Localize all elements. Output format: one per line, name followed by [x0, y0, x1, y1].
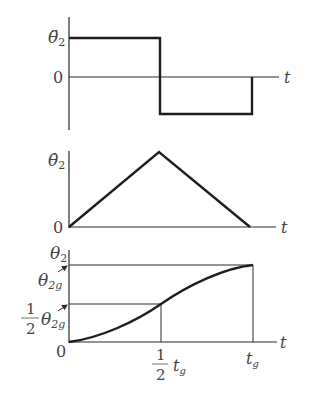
- panel-position: θ2 θ2g 1 2 θ2g 0 t 1 2 tg tg: [21, 243, 287, 384]
- panel-velocity: θ̇2 0 t: [48, 150, 288, 237]
- zero-label: 0: [53, 218, 63, 237]
- zero-label: 0: [53, 68, 63, 87]
- half-level-label: 1 2 θ2g: [21, 300, 65, 338]
- diagram-canvas: θ̈2 0 t θ̇2 0 t θ2 θ2g 1 2 θ2g 0 t: [0, 0, 311, 409]
- panel-acceleration: θ̈2 0 t: [48, 17, 291, 130]
- y-label: θ̇2: [48, 150, 65, 172]
- half-tg-tick-label: 1 2 tg: [152, 346, 186, 384]
- acceleration-curve: [69, 38, 252, 114]
- svg-text:θ2g: θ2g: [41, 309, 65, 331]
- svg-text:2: 2: [26, 320, 36, 338]
- svg-text:1: 1: [26, 300, 36, 318]
- svg-text:2: 2: [156, 366, 166, 384]
- tg-tick-label: tg: [246, 349, 259, 369]
- t-label: t: [280, 333, 287, 352]
- t-label: t: [284, 68, 291, 87]
- svg-text:tg: tg: [173, 356, 186, 376]
- full-level-pointer: [58, 266, 67, 272]
- svg-text:1: 1: [156, 346, 166, 364]
- full-level-label: θ2g: [38, 270, 62, 292]
- y-label: θ2: [50, 243, 67, 265]
- velocity-curve: [69, 152, 250, 227]
- y-label: θ̈2: [48, 27, 65, 49]
- t-label: t: [281, 218, 288, 237]
- zero-label: 0: [56, 342, 66, 361]
- half-level-pointer: [58, 305, 67, 311]
